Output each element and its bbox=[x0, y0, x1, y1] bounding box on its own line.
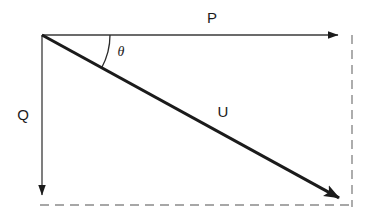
vector-p-label: P bbox=[207, 9, 217, 26]
vector-u-label: U bbox=[218, 103, 229, 120]
angle-theta-label: θ bbox=[118, 44, 125, 59]
vector-q-label: Q bbox=[17, 106, 29, 123]
vector-diagram: P Q U θ bbox=[0, 0, 376, 224]
vector-u-arrow bbox=[42, 35, 339, 198]
angle-arc-theta bbox=[102, 35, 110, 68]
vector-diagram-canvas: P Q U θ bbox=[0, 0, 376, 224]
